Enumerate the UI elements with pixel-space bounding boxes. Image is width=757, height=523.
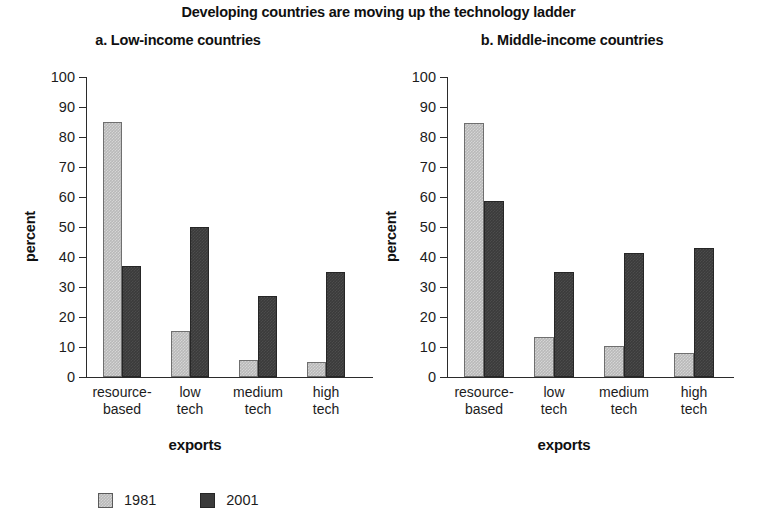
panel-b-ylabel-30: 30 [402, 280, 436, 295]
panel-b-y-axis-title: percent [383, 211, 399, 262]
panel-a-ylabel-20: 20 [41, 310, 75, 325]
panel-b-tick-90 [440, 107, 447, 108]
panel-a-x-axis-title: exports [0, 436, 378, 453]
bar-a-resource-based-1981 [103, 122, 122, 377]
panel-b-tick-30 [440, 287, 447, 288]
panel-b-x-axis-title: exports [379, 436, 757, 453]
panel-a-tick-90 [79, 107, 86, 108]
panel-a-ylabel-10: 10 [41, 340, 75, 355]
legend-swatch-2001-icon [200, 493, 215, 508]
cat-label-line2: tech [284, 401, 368, 418]
bar-a-low-tech-2001 [190, 227, 209, 377]
panel-b-y-axis-line [447, 77, 448, 378]
bar-b-resource-based-2001 [484, 201, 504, 377]
panel-a-tick-70 [79, 167, 86, 168]
panel-middle-income: b. Middle-income countries percent 100 9… [379, 32, 757, 472]
panel-b-x-axis-line [447, 377, 734, 378]
panel-a-tick-60 [79, 197, 86, 198]
panel-a-plot-area: percent 100 90 80 70 60 50 40 30 20 10 0 [0, 32, 378, 432]
bar-a-high-tech-1981 [307, 362, 326, 377]
panel-a-tick-0 [79, 377, 86, 378]
legend-item-1981: 1981 [98, 492, 156, 508]
panel-b-tick-60 [440, 197, 447, 198]
cat-label-line1: high [652, 384, 736, 401]
legend-label-2001: 2001 [226, 492, 258, 508]
panel-a-tick-80 [79, 137, 86, 138]
bar-a-resource-based-2001 [122, 266, 141, 377]
bar-a-medium-tech-2001 [258, 296, 277, 377]
bar-b-low-tech-1981 [534, 337, 554, 377]
panel-b-tick-40 [440, 257, 447, 258]
bar-a-high-tech-2001 [326, 272, 345, 377]
cat-label-a-high-tech: high tech [284, 384, 368, 418]
panel-b-tick-20 [440, 317, 447, 318]
bar-b-high-tech-2001 [694, 248, 714, 377]
panel-b-tick-10 [440, 347, 447, 348]
panel-a-ylabel-30: 30 [41, 280, 75, 295]
panel-b-ylabel-80: 80 [402, 130, 436, 145]
bar-b-medium-tech-2001 [624, 253, 644, 378]
panel-a-tick-20 [79, 317, 86, 318]
figure-title: Developing countries are moving up the t… [0, 4, 757, 20]
panel-a-x-axis-line [86, 377, 373, 378]
panel-b-ylabel-60: 60 [402, 190, 436, 205]
legend-item-2001: 2001 [200, 492, 258, 508]
panel-b-plot-area: percent 100 90 80 70 60 50 40 30 20 10 0 [379, 32, 757, 432]
panel-b-tick-80 [440, 137, 447, 138]
panel-a-y-axis-title: percent [22, 211, 38, 262]
panel-b-tick-100 [440, 77, 447, 78]
panel-b-ylabel-0: 0 [402, 370, 436, 385]
chart-legend: 1981 2001 [98, 492, 259, 508]
panel-b-ylabel-20: 20 [402, 310, 436, 325]
panel-a-tick-100 [79, 77, 86, 78]
chart-figure: Developing countries are moving up the t… [0, 0, 757, 523]
panel-b-ylabel-10: 10 [402, 340, 436, 355]
panel-a-tick-10 [79, 347, 86, 348]
bar-b-medium-tech-1981 [604, 346, 624, 377]
panel-a-ylabel-0: 0 [41, 370, 75, 385]
panel-b-tick-0 [440, 377, 447, 378]
bar-a-medium-tech-1981 [239, 360, 258, 377]
cat-label-line1: high [284, 384, 368, 401]
cat-label-line2: tech [652, 401, 736, 418]
cat-label-b-high-tech: high tech [652, 384, 736, 418]
panel-a-ylabel-60: 60 [41, 190, 75, 205]
panel-b-ylabel-50: 50 [402, 220, 436, 235]
legend-label-1981: 1981 [124, 492, 156, 508]
panel-a-y-axis-line [86, 77, 87, 378]
panel-b-tick-70 [440, 167, 447, 168]
panel-a-ylabel-70: 70 [41, 160, 75, 175]
panel-b-tick-50 [440, 227, 447, 228]
legend-swatch-1981-icon [98, 493, 113, 508]
bar-b-resource-based-1981 [464, 123, 484, 377]
panel-a-tick-40 [79, 257, 86, 258]
panel-a-ylabel-100: 100 [41, 70, 75, 85]
panel-low-income: a. Low-income countries percent 100 90 8… [0, 32, 378, 472]
panel-b-ylabel-40: 40 [402, 250, 436, 265]
panel-a-ylabel-40: 40 [41, 250, 75, 265]
panel-a-ylabel-80: 80 [41, 130, 75, 145]
panel-a-tick-30 [79, 287, 86, 288]
panel-a-tick-50 [79, 227, 86, 228]
bar-a-low-tech-1981 [171, 331, 190, 378]
panel-b-ylabel-100: 100 [402, 70, 436, 85]
panel-b-ylabel-90: 90 [402, 100, 436, 115]
panel-a-ylabel-90: 90 [41, 100, 75, 115]
panel-a-ylabel-50: 50 [41, 220, 75, 235]
bar-b-high-tech-1981 [674, 353, 694, 377]
panel-b-ylabel-70: 70 [402, 160, 436, 175]
bar-b-low-tech-2001 [554, 272, 574, 377]
